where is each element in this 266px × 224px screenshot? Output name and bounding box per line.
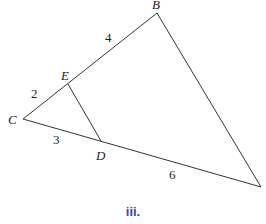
segment-ed	[68, 84, 101, 141]
vertex-label-e: E	[60, 68, 69, 83]
triangle-cba	[23, 13, 261, 187]
vertex-label-c: C	[8, 112, 17, 127]
vertex-label-d: D	[95, 148, 106, 163]
triangle-diagram: B C E D 4 2 3 6	[0, 0, 266, 224]
length-label-ce: 2	[31, 86, 38, 101]
vertex-label-b: B	[152, 0, 160, 12]
length-label-cd: 3	[53, 132, 60, 147]
length-label-da: 6	[169, 167, 176, 182]
length-label-eb: 4	[105, 30, 112, 45]
figure-caption: iii.	[0, 204, 266, 219]
